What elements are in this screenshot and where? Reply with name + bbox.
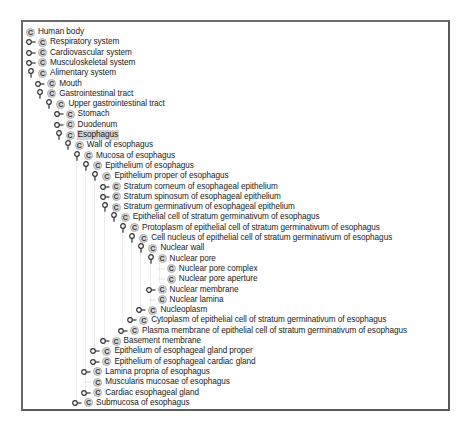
collapse-handle-icon[interactable]: [26, 68, 36, 78]
collapse-handle-icon[interactable]: [54, 130, 64, 140]
tree-node-label[interactable]: Protoplasm of epithelial cell of stratum…: [141, 223, 381, 233]
tree-node[interactable]: CStratum corneum of esophageal epitheliu…: [100, 182, 279, 192]
expand-handle-icon[interactable]: [90, 357, 100, 367]
tree-node[interactable]: CEpithelium of esophageal gland proper: [90, 346, 253, 356]
class-hierarchy-tree[interactable]: CHuman bodyCRespiratory systemCCardiovas…: [23, 22, 448, 409]
tree-node[interactable]: CCytoplasm of epithelial cell of stratum…: [127, 315, 387, 325]
tree-node-label[interactable]: Gastrointestinal tract: [58, 89, 134, 99]
tree-node-label[interactable]: Cardiovascular system: [49, 48, 133, 58]
tree-node-label[interactable]: Lamina propria of esophagus: [104, 367, 211, 377]
expand-handle-icon[interactable]: [127, 315, 137, 325]
collapse-handle-icon[interactable]: [90, 171, 100, 181]
tree-node[interactable]: CNucleoplasm: [136, 305, 208, 315]
tree-node[interactable]: CNuclear pore complex: [155, 264, 259, 274]
tree-node-label[interactable]: Respiratory system: [49, 37, 120, 47]
collapse-handle-icon[interactable]: [100, 202, 110, 212]
tree-node[interactable]: CMouth: [35, 79, 83, 89]
expand-handle-icon[interactable]: [26, 37, 36, 47]
tree-node[interactable]: CCell nucleus of epithelial cell of stra…: [127, 233, 393, 243]
collapse-handle-icon[interactable]: [81, 161, 91, 171]
tree-node-label[interactable]: Human body: [37, 27, 85, 37]
expand-handle-icon[interactable]: [90, 346, 100, 356]
tree-node-label[interactable]: Muscularis mucosae of esophagus: [104, 377, 231, 387]
tree-node-label[interactable]: Alimentary system: [49, 68, 117, 78]
expand-handle-icon[interactable]: [100, 182, 110, 192]
tree-node-label[interactable]: Nuclear pore complex: [178, 264, 259, 274]
tree-node-label[interactable]: Duodenum: [77, 120, 119, 130]
expand-handle-icon[interactable]: [26, 48, 36, 58]
tree-node-label[interactable]: Nuclear membrane: [169, 285, 240, 295]
expand-handle-icon[interactable]: [54, 120, 64, 130]
tree-node[interactable]: CProtoplasm of epithelial cell of stratu…: [118, 223, 381, 233]
tree-node-label[interactable]: Epithelial cell of stratum germinativum …: [132, 212, 321, 222]
tree-node[interactable]: CMusculoskeletal system: [26, 58, 136, 68]
tree-node[interactable]: CLamina propria of esophagus: [81, 367, 211, 377]
expand-handle-icon[interactable]: [81, 388, 91, 398]
tree-node-label[interactable]: Epithelium of esophageal cardiac gland: [113, 357, 256, 367]
expand-handle-icon[interactable]: [136, 305, 146, 315]
collapse-handle-icon[interactable]: [72, 151, 82, 161]
expand-handle-icon[interactable]: [100, 192, 110, 202]
tree-node[interactable]: CMuscularis mucosae of esophagus: [81, 377, 231, 387]
tree-node-label[interactable]: Mouth: [58, 79, 83, 89]
tree-node-label[interactable]: Upper gastrointestinal tract: [67, 99, 165, 109]
tree-node-label[interactable]: Stratum corneum of esophageal epithelium: [123, 182, 279, 192]
tree-node[interactable]: CCardiac esophageal gland: [81, 388, 200, 398]
tree-node[interactable]: CGastrointestinal tract: [35, 89, 134, 99]
tree-node-label[interactable]: Cytoplasm of epithelial cell of stratum …: [150, 315, 387, 325]
tree-node-label[interactable]: Wall of esophagus: [86, 140, 154, 150]
tree-node-label[interactable]: Stomach: [77, 109, 111, 119]
tree-node[interactable]: CWall of esophagus: [63, 140, 154, 150]
tree-node-label[interactable]: Nucleoplasm: [159, 305, 208, 315]
collapse-handle-icon[interactable]: [44, 99, 54, 109]
expand-handle-icon[interactable]: [146, 285, 156, 295]
tree-node[interactable]: CNuclear pore: [146, 254, 217, 264]
tree-node-label[interactable]: Epithelium of esophagus: [104, 161, 195, 171]
tree-node[interactable]: CNuclear lamina: [146, 295, 225, 305]
tree-node[interactable]: CDuodenum: [54, 120, 119, 130]
tree-node[interactable]: CEpithelium proper of esophagus: [90, 171, 229, 181]
tree-node[interactable]: CEpithelium of esophageal cardiac gland: [90, 357, 256, 367]
tree-node-label[interactable]: Nuclear pore aperture: [178, 274, 259, 284]
tree-node-label[interactable]: Cell nucleus of epithelial cell of strat…: [150, 233, 393, 243]
tree-node-label[interactable]: Esophagus: [77, 130, 120, 140]
tree-node[interactable]: CPlasma membrane of epithelial cell of s…: [118, 326, 408, 336]
collapse-handle-icon[interactable]: [127, 233, 137, 243]
tree-node-label[interactable]: Plasma membrane of epithelial cell of st…: [141, 326, 408, 336]
tree-node-label[interactable]: Epithelium of esophageal gland proper: [113, 346, 253, 356]
collapse-handle-icon[interactable]: [63, 140, 73, 150]
tree-node[interactable]: CCardiovascular system: [26, 48, 133, 58]
tree-node[interactable]: CEsophagus: [54, 130, 120, 140]
collapse-handle-icon[interactable]: [35, 89, 45, 99]
tree-node[interactable]: CEpithelial cell of stratum germinativum…: [109, 212, 321, 222]
expand-handle-icon[interactable]: [26, 58, 36, 68]
tree-node-label[interactable]: Epithelium proper of esophagus: [113, 171, 229, 181]
tree-node[interactable]: CSubmucosa of esophagus: [72, 398, 191, 408]
tree-node[interactable]: CMucosa of esophagus: [72, 151, 176, 161]
tree-node[interactable]: CNuclear wall: [136, 243, 205, 253]
tree-node-label[interactable]: Musculoskeletal system: [49, 58, 136, 68]
tree-node-label[interactable]: Basement membrane: [123, 336, 202, 346]
tree-node-label[interactable]: Nuclear pore: [169, 254, 217, 264]
tree-node[interactable]: CHuman body: [26, 27, 85, 37]
tree-node-label[interactable]: Mucosa of esophagus: [95, 151, 176, 161]
collapse-handle-icon[interactable]: [109, 212, 119, 222]
expand-handle-icon[interactable]: [81, 367, 91, 377]
tree-node[interactable]: CAlimentary system: [26, 68, 117, 78]
tree-node-label[interactable]: Nuclear lamina: [169, 295, 225, 305]
tree-node[interactable]: CBasement membrane: [100, 336, 202, 346]
tree-node[interactable]: CStomach: [54, 109, 111, 119]
expand-handle-icon[interactable]: [100, 336, 110, 346]
tree-node[interactable]: CNuclear membrane: [146, 285, 240, 295]
collapse-handle-icon[interactable]: [146, 254, 156, 264]
tree-node[interactable]: CStratum spinosum of esophageal epitheli…: [100, 192, 282, 202]
expand-handle-icon[interactable]: [54, 109, 64, 119]
expand-handle-icon[interactable]: [72, 398, 82, 408]
expand-handle-icon[interactable]: [118, 326, 128, 336]
tree-node[interactable]: CNuclear pore aperture: [155, 274, 259, 284]
tree-node[interactable]: CEpithelium of esophagus: [81, 161, 195, 171]
tree-node[interactable]: CStratum germinativum of esophageal epit…: [100, 202, 296, 212]
tree-node-label[interactable]: Stratum germinativum of esophageal epith…: [123, 202, 296, 212]
tree-node-label[interactable]: Cardiac esophageal gland: [104, 388, 200, 398]
tree-node[interactable]: CUpper gastrointestinal tract: [44, 99, 165, 109]
